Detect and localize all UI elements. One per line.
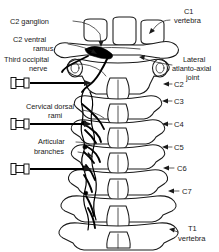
needle-third-occipital-nerve[interactable]	[11, 78, 92, 89]
c5-nerve-junction	[83, 145, 87, 149]
arrow-c2-level	[163, 82, 169, 87]
label-t1-vertebra: T1 vertebra	[178, 224, 206, 243]
label-lateral-joint-line3: joint	[185, 73, 199, 82]
label-articular-branches: Articular branches	[34, 137, 65, 156]
needle-hub-flange-3	[11, 164, 16, 175]
label-articular-branches-line1: Articular	[38, 137, 65, 146]
needle-hub-collar-1	[24, 78, 29, 88]
needle-hub-body-1	[16, 80, 24, 87]
label-lateral-atlanto-axial-joint: Lateral atlanto-axial joint	[172, 55, 212, 82]
label-t1-line1: T1	[188, 224, 197, 233]
needle-hub-collar-3	[24, 164, 29, 174]
label-lateral-joint-line1: Lateral	[183, 55, 206, 64]
label-level-c4: C4	[174, 120, 184, 129]
label-third-occipital-nerve: Third occipital nerve	[4, 55, 49, 73]
anatomical-diagram-canvas: C2 ganglion C2 ventral ramus Third occip…	[0, 0, 219, 252]
arrow-c7-level	[168, 189, 174, 194]
label-c2-ventral-ramus-line2: ramus	[33, 44, 54, 53]
needle-hub-flange-2	[11, 119, 16, 130]
label-level-c2: C2	[174, 80, 184, 89]
label-lateral-joint-line2: atlanto-axial	[172, 64, 212, 73]
label-c1-vertebra: C1 vertebra	[174, 7, 202, 25]
label-c1-vertebra-line1: C1	[184, 7, 193, 16]
needle-hub-flange-1	[11, 78, 16, 89]
needle-hub-body-2	[16, 121, 24, 128]
label-cervical-dorsal-rami: Cervical dorsal rami	[26, 102, 75, 120]
c1-median-block	[113, 17, 136, 45]
label-t1-line2: vertebra	[178, 234, 206, 243]
label-third-occipital-line2: nerve	[29, 64, 47, 73]
label-c2-ganglion: C2 ganglion	[10, 17, 49, 26]
label-c2-ganglion-line1: C2 ganglion	[10, 17, 49, 26]
arrow-c3-level	[162, 99, 168, 104]
cervical-spine-figure: C2 ganglion C2 ventral ramus Third occip…	[0, 0, 219, 252]
label-third-occipital-line1: Third occipital	[4, 55, 49, 64]
label-level-c7: C7	[182, 187, 192, 196]
label-cervical-dorsal-rami-line1: Cervical dorsal	[26, 102, 75, 111]
t1-group	[59, 223, 178, 250]
c1-left-superior-mass	[84, 19, 107, 41]
t1-spinous-process	[107, 232, 130, 248]
label-level-c6: C6	[177, 164, 187, 173]
c7-nerve-junction	[84, 191, 88, 195]
needle-hub-body-3	[16, 166, 24, 173]
label-level-c3: C3	[174, 97, 184, 106]
label-c1-vertebra-line2: vertebra	[174, 16, 202, 25]
label-level-c5: C5	[174, 143, 184, 152]
label-c2-ventral-ramus: C2 ventral ramus	[13, 35, 54, 53]
label-articular-branches-line2: branches	[34, 147, 64, 156]
label-c2-ventral-ramus-line1: C2 ventral	[13, 35, 47, 44]
needle-hub-collar-2	[24, 119, 29, 129]
arrow-c6-level	[163, 166, 169, 171]
label-cervical-dorsal-rami-line2: rami	[48, 111, 63, 120]
